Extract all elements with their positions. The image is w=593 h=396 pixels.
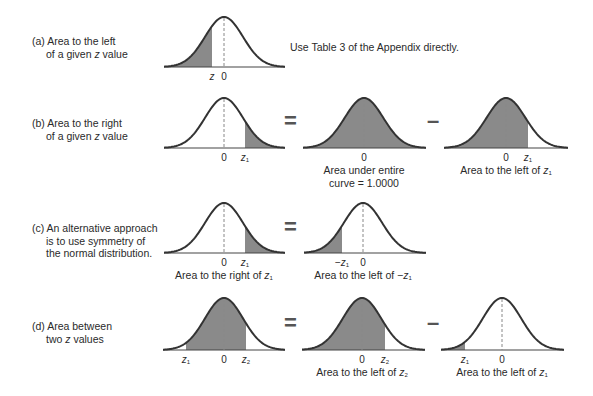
caption-line: Area to the left of z1 (460, 164, 551, 180)
tick-label: z2 (381, 354, 389, 365)
row-label-line: of a given z value (32, 130, 128, 143)
equals-sign: = (284, 313, 297, 333)
row-label-line: (d) Area between (32, 320, 112, 333)
caption-line: Area to the left of z1 (456, 366, 547, 382)
curve-caption: Area to the right of z1 (175, 269, 273, 285)
tick-label: z1 (241, 257, 249, 268)
curve-caption: Area to the left of −z1 (314, 269, 412, 285)
normal-curve-c-2 (304, 203, 426, 253)
equals-sign: = (284, 111, 297, 131)
tick-label: 0 (221, 71, 227, 82)
curve-caption: Area to the left of z1 (460, 164, 551, 180)
tick-label: z1 (461, 354, 469, 365)
tick-label: 0 (499, 354, 505, 365)
caption-line: Area to the left of −z1 (314, 269, 412, 285)
row-label-line: the normal distribution. (32, 247, 158, 260)
tick-label: 0 (221, 354, 227, 365)
row-label-line: (a) Area to the left (32, 35, 128, 48)
normal-curve-d-1 (163, 298, 285, 350)
tick-label: z1 (241, 152, 249, 163)
tick-label: 0 (221, 152, 227, 163)
row-label-line: of a given z value (32, 48, 128, 61)
row-label-b: (b) Area to the rightof a given z value (32, 117, 128, 142)
tick-label: 0 (221, 257, 227, 268)
caption-line: curve = 1.0000 (323, 177, 404, 190)
normal-curve-b-3 (444, 98, 568, 148)
row-label-d: (d) Area betweentwo z values (32, 320, 112, 345)
tick-label: z (210, 71, 215, 82)
bell-curve-line (304, 203, 426, 253)
minus-sign: – (427, 111, 439, 131)
row-label-line: (b) Area to the right (32, 117, 128, 130)
shaded-area (304, 226, 342, 253)
tick-label: z1 (182, 354, 190, 365)
row-label-c: (c) An alternative approachis to use sym… (32, 222, 158, 260)
shaded-area (164, 26, 212, 67)
shaded-area (186, 298, 246, 350)
tick-label: 0 (359, 354, 365, 365)
tick-label: −z1 (335, 257, 349, 268)
curve-caption: Area under entirecurve = 1.0000 (323, 164, 404, 189)
tick-label: 0 (360, 257, 366, 268)
row-label-line: (c) An alternative approach (32, 222, 158, 235)
normal-curve-c-1 (164, 203, 285, 253)
normal-curve-d-3 (441, 298, 564, 350)
tick-label: z2 (242, 354, 250, 365)
caption-line: Area to the left of z2 (316, 366, 407, 382)
caption-line: Area to the right of z1 (175, 269, 273, 285)
shaded-area (444, 98, 528, 148)
row-note-a: Use Table 3 of the Appendix directly. (290, 41, 459, 54)
normal-curve-d-2 (302, 298, 425, 350)
tick-label: z1 (524, 152, 532, 163)
row-label-line: is to use symmetry of (32, 235, 158, 248)
tick-label: 0 (503, 152, 509, 163)
curve-caption: Area to the left of z1 (456, 366, 547, 382)
tick-label: 0 (361, 152, 367, 163)
equals-sign: = (284, 217, 297, 237)
curve-caption: Area to the left of z2 (316, 366, 407, 382)
minus-sign: – (427, 313, 439, 333)
normal-curve-b-2 (303, 98, 426, 148)
caption-line: Area under entire (323, 164, 404, 177)
row-label-line: two z values (32, 333, 112, 346)
row-label-a: (a) Area to the leftof a given z value (32, 35, 128, 60)
normal-curve-b-1 (164, 98, 285, 148)
normal-curve-a-1 (164, 17, 285, 67)
